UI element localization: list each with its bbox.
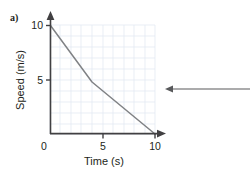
x-tick-label-10: 10: [149, 140, 161, 152]
x-tick-label-5: 5: [100, 140, 106, 152]
speed-time-graph: 10 5 0 5 10 Time (s) Speed (m/s): [0, 0, 250, 174]
figure-panel: a): [0, 0, 250, 174]
y-tick-label-10: 10: [31, 19, 43, 31]
x-tick-label-0: 0: [41, 140, 47, 152]
pointer-arrow-icon: [165, 86, 250, 93]
x-axis-title: Time (s): [84, 155, 124, 167]
y-tick-label-5: 5: [37, 74, 43, 86]
grid-minor: [50, 25, 155, 134]
x-axis: [50, 130, 166, 139]
y-axis-title: Speed (m/s): [14, 50, 26, 110]
